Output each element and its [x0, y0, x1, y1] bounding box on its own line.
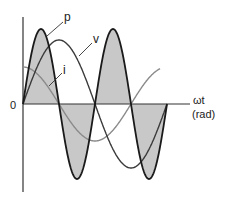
x-axis-unit: (rad)	[192, 109, 215, 120]
x-axis-label: ωt	[193, 95, 205, 106]
v-label: v	[93, 33, 99, 45]
origin-label: 0	[10, 100, 16, 111]
p-label: p	[64, 11, 71, 23]
waveform-diagram	[0, 0, 225, 202]
p-label-leader	[47, 22, 63, 36]
i-label: i	[63, 64, 66, 76]
v-label-leader	[79, 43, 92, 56]
